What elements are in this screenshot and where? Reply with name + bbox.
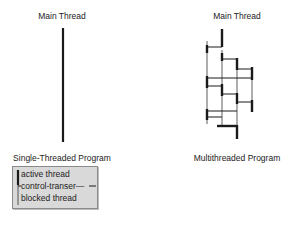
multithreaded-caption: Multithreaded Program	[194, 153, 280, 163]
legend-blocked-thread: blocked thread	[21, 193, 77, 204]
legend-control-transfer: control-transer—	[21, 181, 84, 192]
legend-active-thread: active thread	[21, 169, 70, 180]
control-transfers	[207, 47, 252, 126]
single-threaded-caption: Single-Threaded Program	[13, 153, 111, 163]
legend-box: active thread control-transer— blocked t…	[12, 166, 98, 209]
active-segments	[207, 29, 252, 139]
